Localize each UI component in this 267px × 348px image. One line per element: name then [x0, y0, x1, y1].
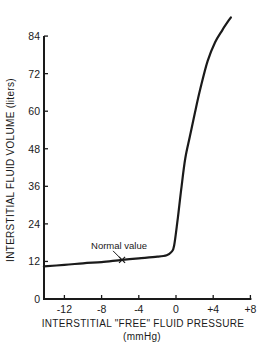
x-tick-label: -8 [97, 303, 106, 315]
y-tick-label: 84 [28, 30, 40, 42]
y-tick-label: 12 [28, 255, 40, 267]
x-axis: -12-8-40+4+8 [43, 295, 257, 315]
y-tick-label: 36 [28, 180, 40, 192]
y-tick-label: 72 [28, 68, 40, 80]
y-tick-label: 24 [28, 218, 40, 230]
x-axis-title: INTERSTITIAL "FREE" FLUID PRESSURE [42, 318, 245, 329]
y-tick-label: 48 [28, 143, 40, 155]
x-tick-label: -4 [134, 303, 143, 315]
interstitial-fluid-chart: 012243648607284 -12-8-40+4+8 Normal valu… [0, 0, 267, 348]
y-axis-title: INTERSTITIAL FLUID VOLUME (liters) [5, 78, 16, 262]
y-tick-label: 60 [28, 105, 40, 117]
x-tick-label: 0 [173, 303, 179, 315]
x-tick-label: +4 [207, 303, 219, 315]
annotation-leader [113, 251, 120, 258]
x-axis-units: (mmHg) [123, 331, 161, 342]
data-series [44, 17, 231, 266]
y-tick-label: 0 [34, 293, 40, 305]
x-tick-label: -12 [57, 303, 72, 315]
annotation-label: Normal value [91, 240, 147, 251]
y-axis: 012243648607284 [28, 30, 48, 305]
series-line [44, 17, 231, 266]
x-tick-label: +8 [244, 303, 256, 315]
